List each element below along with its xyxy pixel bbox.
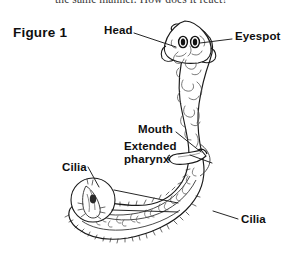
eyespot-left-pupil xyxy=(181,38,185,45)
figure-page: the same manner. How does it react? Figu… xyxy=(0,0,297,256)
label-head: Head xyxy=(104,24,133,36)
label-cilia-left: Cilia xyxy=(62,161,87,173)
cilia-magnification-inset xyxy=(71,178,115,222)
eyespot-right-pupil xyxy=(193,38,197,45)
label-eyespot: Eyespot xyxy=(235,30,280,42)
cilia-right-leader xyxy=(213,211,238,219)
label-mouth: Mouth xyxy=(138,123,173,135)
label-cilia-right: Cilia xyxy=(241,213,266,225)
inset-granule xyxy=(90,195,96,204)
label-extended-pharynx: Extended pharynx xyxy=(124,140,188,166)
